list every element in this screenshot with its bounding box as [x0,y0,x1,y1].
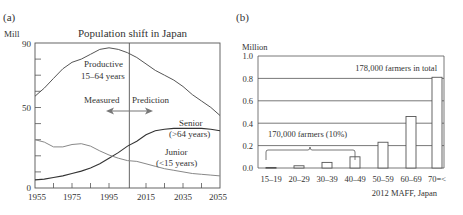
panel-a-y-unit: Mill [4,29,20,39]
young-farmers-brace [266,147,355,160]
bar-20–29 [294,166,304,168]
panel-a-ytick-50: 50 [22,103,32,113]
category-label: 70=< [428,174,446,184]
panel-b-farmers-chart: (b) Million 1.0 0.8 0.6 0.4 0.2 0.0 15–1… [236,11,446,198]
category-label: 60–69 [400,174,421,184]
senior-label-line2: (>64 years) [169,129,210,139]
productive-line [35,48,220,116]
panel-b-ytick-0.4: 0.4 [242,119,253,129]
panel-a-y-ticks [35,59,41,172]
bar-50–59 [378,142,388,168]
junior-label-line1: Junior [165,147,188,157]
panel-b-ytick-0.0: 0.0 [242,163,253,173]
panel-a-xtick-1975: 1975 [63,192,82,202]
panel-b-tag: (b) [236,11,249,24]
panel-a-tag: (a) [3,11,16,24]
panel-b-ytick-1.0: 1.0 [242,51,253,61]
panel-a-xtick-1995: 1995 [100,192,119,202]
productive-label-line2: 15–64 years [81,71,125,81]
category-label: 50–59 [372,174,393,184]
bar-70=< [432,77,442,168]
junior-label-line2: (<15 years) [156,158,197,168]
panel-b-ytick-0.6: 0.6 [242,96,253,106]
bar-60–69 [406,116,416,168]
panel-a-x-ticks [54,183,202,188]
young-farmers-note: 170,000 farmers (10%) [268,129,347,139]
panel-a-title: Population shift in Japan [78,27,188,39]
source-note: 2012 MAFF, Japan [372,188,438,198]
panel-a-ytick-90: 90 [22,39,32,49]
category-label: 40–49 [344,174,365,184]
senior-label-line1: Senior [179,118,203,128]
category-label: 15–19 [260,174,281,184]
bar-15–19 [266,167,276,168]
measured-label: Measured [84,95,120,105]
panel-b-bars [266,77,442,168]
panel-b-ytick-0.2: 0.2 [242,141,253,151]
panel-b-ytick-0.8: 0.8 [242,74,253,84]
total-farmers-note: 178,000 farmers in total [355,63,437,73]
figure: (a) Population shift in Japan Mill 90 50… [0,0,463,215]
productive-label-line1: Productive [84,59,123,69]
panel-a-xtick-2055: 2055 [209,192,228,202]
prediction-label: Prediction [132,95,169,105]
panel-a-population-chart: (a) Population shift in Japan Mill 90 50… [3,11,228,202]
panel-a-xtick-2035: 2035 [174,192,193,202]
bar-30–39 [322,162,332,168]
panel-a-xtick-2015: 2015 [137,192,156,202]
category-label: 30–39 [316,174,337,184]
category-label: 20–29 [288,174,309,184]
panel-a-xtick-1955: 1955 [28,192,47,202]
